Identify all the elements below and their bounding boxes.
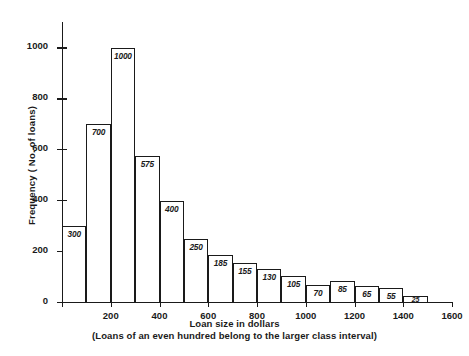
bar-value-label: 70 bbox=[307, 288, 329, 298]
bar-value-label: 700 bbox=[87, 127, 109, 137]
y-tick: 400 bbox=[57, 200, 67, 201]
bar-value-label: 575 bbox=[136, 159, 158, 169]
bar-value-label: 250 bbox=[185, 242, 207, 252]
plot-area: 02004006008001000 2004006008001000120014… bbox=[62, 22, 452, 303]
histogram-bar: 300 bbox=[62, 226, 86, 302]
y-tick-label: 400 bbox=[32, 193, 48, 204]
histogram-bar: 700 bbox=[86, 124, 110, 302]
bar-value-label: 65 bbox=[356, 289, 378, 299]
histogram-bar: 55 bbox=[379, 288, 403, 302]
y-tick-label: 0 bbox=[43, 295, 48, 306]
histogram-bar: 155 bbox=[233, 263, 257, 302]
x-tick bbox=[306, 302, 307, 307]
x-tick bbox=[62, 302, 63, 307]
bar-value-label: 130 bbox=[258, 272, 280, 282]
x-tick bbox=[111, 302, 112, 307]
histogram-bar: 575 bbox=[135, 156, 159, 302]
x-tick bbox=[208, 302, 209, 307]
bar-value-label: 105 bbox=[282, 279, 304, 289]
histogram-bar: 105 bbox=[281, 276, 305, 303]
x-axis-sublabel: (Loans of an even hundred belong to the … bbox=[0, 330, 469, 341]
x-axis-label: Loan size in dollars bbox=[0, 318, 469, 329]
histogram-figure: Frequency ( No. of loans) 02004006008001… bbox=[0, 0, 469, 356]
y-tick: 1000 bbox=[57, 47, 67, 48]
histogram-bar: 250 bbox=[184, 239, 208, 303]
histogram-bar: 85 bbox=[330, 281, 354, 303]
bar-value-label: 185 bbox=[209, 258, 231, 268]
bar-value-label: 300 bbox=[63, 229, 85, 239]
histogram-bar: 65 bbox=[355, 286, 379, 303]
histogram-bar: 25 bbox=[403, 296, 427, 302]
y-tick-label: 1000 bbox=[27, 40, 48, 51]
y-tick-label: 600 bbox=[32, 142, 48, 153]
bar-value-label: 85 bbox=[331, 284, 353, 294]
histogram-bar: 185 bbox=[208, 255, 232, 302]
x-tick bbox=[355, 302, 356, 307]
bar-value-label: 155 bbox=[234, 266, 256, 276]
y-tick: 800 bbox=[57, 98, 67, 99]
histogram-bar: 400 bbox=[160, 201, 184, 303]
x-tick bbox=[257, 302, 258, 307]
bar-value-label: 55 bbox=[380, 291, 402, 301]
x-tick bbox=[452, 302, 453, 307]
y-tick-label: 800 bbox=[32, 91, 48, 102]
bar-value-label: 400 bbox=[161, 204, 183, 214]
x-axis-caption: Loan size in dollars (Loans of an even h… bbox=[0, 318, 469, 341]
y-tick-label: 200 bbox=[32, 244, 48, 255]
bar-value-label: 25 bbox=[404, 296, 426, 303]
histogram-bar: 130 bbox=[257, 269, 281, 302]
x-tick bbox=[160, 302, 161, 307]
y-tick: 600 bbox=[57, 149, 67, 150]
histogram-bar: 1000 bbox=[111, 48, 135, 303]
histogram-bar: 70 bbox=[306, 285, 330, 303]
bar-value-label: 1000 bbox=[112, 51, 134, 61]
